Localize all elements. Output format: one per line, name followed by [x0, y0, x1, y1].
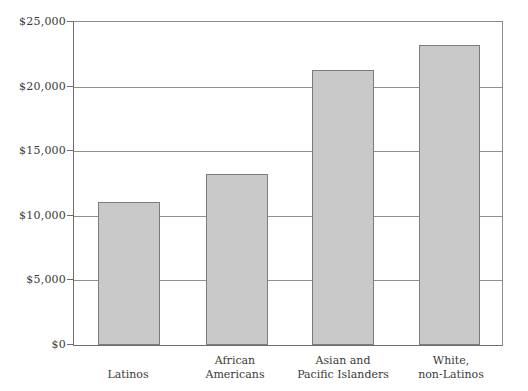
x-axis-label-asian-and-pacific-islanders: Asian and Pacific Islanders — [276, 354, 410, 382]
x-axis-label-latinos: Latinos — [72, 368, 184, 382]
x-axis-label-african-americans-line-2: Americans — [179, 368, 291, 382]
x-axis-label-white-non-latinos-line-2: non-Latinos — [392, 368, 510, 382]
x-axis-label-asian-and-pacific-islanders-line-1: Asian and — [276, 354, 410, 368]
bar-chart: $0 $5,000 $10,000 $15,000 $20,000 $25,00… — [0, 0, 528, 391]
bar-white-non-latinos — [419, 45, 480, 345]
x-axis-label-african-americans: African Americans — [179, 354, 291, 382]
x-axis-label-white-non-latinos-line-1: White, — [392, 354, 510, 368]
x-axis-label-african-americans-line-1: African — [179, 354, 291, 368]
x-axis-label-latinos-line-1: Latinos — [72, 368, 184, 382]
y-axis-label-25000: $25,000 — [19, 16, 66, 27]
y-axis-label-20000: $20,000 — [19, 81, 66, 92]
bar-asian-and-pacific-islanders — [312, 70, 374, 345]
y-axis-label-0: $0 — [52, 339, 66, 350]
y-axis-label-5000: $5,000 — [26, 274, 66, 285]
plot-area — [73, 21, 503, 346]
x-axis-label-asian-and-pacific-islanders-line-2: Pacific Islanders — [276, 368, 410, 382]
y-axis-label-10000: $10,000 — [19, 210, 66, 221]
bar-latinos — [98, 202, 160, 345]
x-axis-label-white-non-latinos: White, non-Latinos — [392, 354, 510, 382]
bar-african-americans — [206, 174, 268, 345]
y-axis-label-15000: $15,000 — [19, 145, 66, 156]
